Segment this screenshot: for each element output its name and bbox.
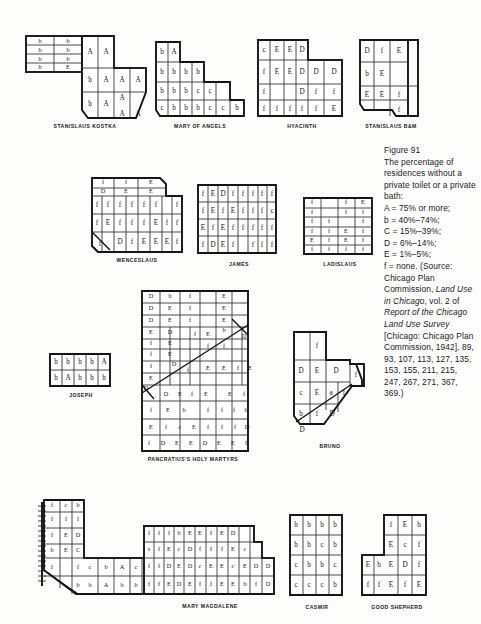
svg-text:E: E <box>154 238 159 246</box>
figure-caption-text: The percentage of residences without a p… <box>384 157 476 203</box>
svg-text:b: b <box>244 406 247 413</box>
svg-text:b: b <box>90 374 94 382</box>
svg-text:E: E <box>397 47 402 55</box>
svg-text:E: E <box>168 350 172 357</box>
svg-text:E: E <box>221 241 226 249</box>
svg-text:D: D <box>254 562 259 569</box>
svg-text:c: c <box>221 104 224 112</box>
legend-entry-b: b = 40%–74%; <box>384 215 476 227</box>
svg-text:b: b <box>102 374 106 382</box>
svg-text:E: E <box>206 330 210 337</box>
svg-text:D: D <box>231 529 236 536</box>
svg-text:b: b <box>196 104 200 112</box>
figure-page: b b b b b b b E A A b A A A b A A A A ST… <box>0 0 481 624</box>
svg-text:b: b <box>177 529 180 536</box>
svg-text:E: E <box>124 187 128 194</box>
svg-text:b: b <box>168 292 171 299</box>
map-stanislaus-bottom: f c b f f f f E D b E C f f c b A c b b … <box>22 498 158 613</box>
svg-text:D: D <box>266 580 271 587</box>
svg-text:b: b <box>76 581 79 588</box>
svg-text:E: E <box>220 529 224 536</box>
map-mary-of-angels: b A b b b b b b b c c c b b b c c b MARY… <box>152 40 248 135</box>
svg-text:A: A <box>171 48 177 56</box>
svg-text:b: b <box>104 563 107 570</box>
svg-text:b: b <box>222 326 225 333</box>
svg-text:E: E <box>149 423 153 430</box>
svg-text:b: b <box>88 76 92 84</box>
svg-text:b: b <box>172 68 176 76</box>
map-casmir: b b b b b b c b c b b c c c c b CASMIR <box>286 513 348 612</box>
source-mid-1: , vol. 2 of <box>424 296 459 306</box>
svg-text:E: E <box>154 219 159 227</box>
svg-text:A: A <box>65 374 71 382</box>
svg-text:E: E <box>275 46 280 54</box>
svg-text:E: E <box>366 561 371 569</box>
svg-text:E: E <box>64 531 68 538</box>
svg-text:E: E <box>165 238 170 246</box>
map-label-stanislaus-bm: STANISLAUS B&M <box>356 123 426 129</box>
svg-text:c: c <box>320 581 323 589</box>
map-wenceslaus: f f E D E E f f f f f f f f E f f f E f … <box>88 176 186 268</box>
svg-text:E: E <box>209 562 213 569</box>
svg-text:E: E <box>168 339 172 346</box>
svg-text:E: E <box>344 236 348 243</box>
svg-text:D: D <box>242 332 247 339</box>
svg-text:E: E <box>231 439 235 446</box>
map-hyacinth: c E E D f E E D D D f D f f f f f f f E … <box>256 38 348 135</box>
map-stanislaus-bm: D f E b E E E f f STANISLAUS B&M <box>356 38 426 135</box>
svg-text:b: b <box>66 358 70 366</box>
svg-text:E: E <box>365 91 370 99</box>
map-james: f E D f f f f f f E f E f f f c E f E f … <box>196 183 282 268</box>
svg-text:b: b <box>184 68 188 76</box>
svg-text:E: E <box>315 389 320 397</box>
svg-text:b: b <box>78 358 82 366</box>
svg-text:b: b <box>160 68 164 76</box>
svg-text:b: b <box>235 104 239 112</box>
svg-text:b: b <box>307 561 311 569</box>
svg-text:b: b <box>38 55 41 62</box>
svg-text:A: A <box>103 100 109 108</box>
svg-text:D: D <box>203 439 208 446</box>
svg-text:E: E <box>344 227 348 234</box>
svg-text:E: E <box>149 374 153 381</box>
svg-text:b: b <box>38 37 41 44</box>
svg-text:b: b <box>294 541 298 549</box>
svg-text:b: b <box>120 581 123 588</box>
svg-text:E: E <box>206 364 210 371</box>
svg-text:E: E <box>221 224 226 232</box>
svg-text:E: E <box>166 406 170 413</box>
map-label-ladislaus: LADISLAUS <box>302 261 378 267</box>
svg-text:c: c <box>89 563 92 570</box>
svg-text:D: D <box>188 562 193 569</box>
svg-text:E: E <box>189 439 193 446</box>
svg-text:D: D <box>144 384 149 391</box>
svg-text:A: A <box>119 94 125 102</box>
svg-text:b: b <box>160 87 164 95</box>
svg-text:b: b <box>294 521 298 529</box>
legend-entry-a: A = 75% or more; <box>384 203 476 215</box>
svg-text:b: b <box>78 374 82 382</box>
svg-text:b: b <box>54 358 58 366</box>
svg-text:c: c <box>208 104 211 112</box>
svg-text:E: E <box>417 581 422 589</box>
svg-text:E: E <box>198 529 202 536</box>
svg-text:b: b <box>54 374 58 382</box>
source-title-2: Report of the Chicago Land Use Survey <box>384 307 467 329</box>
svg-text:b: b <box>417 521 421 529</box>
svg-text:c: c <box>307 581 310 589</box>
svg-text:D: D <box>364 47 369 55</box>
svg-text:b: b <box>307 541 311 549</box>
svg-text:E: E <box>177 562 181 569</box>
svg-text:c: c <box>403 541 406 549</box>
svg-text:D: D <box>210 241 215 249</box>
svg-text:E: E <box>220 580 224 587</box>
svg-text:b: b <box>182 406 185 413</box>
svg-text:b: b <box>66 55 69 62</box>
map-label-james: JAMES <box>196 261 282 267</box>
svg-text:E: E <box>66 63 70 70</box>
svg-text:b: b <box>160 48 164 56</box>
svg-text:E: E <box>243 562 247 569</box>
svg-text:D: D <box>161 439 166 446</box>
svg-text:b: b <box>50 546 53 553</box>
svg-text:b: b <box>307 521 311 529</box>
